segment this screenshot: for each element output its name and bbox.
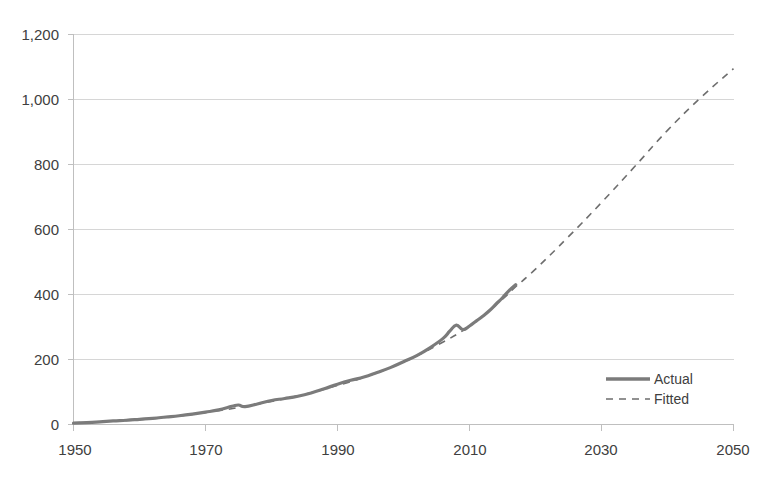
gridlines [74, 35, 734, 360]
chart-container: 1,200 1,000 800 600 400 200 0 1950 1970 … [0, 0, 767, 481]
x-tick-label-2030: 2030 [584, 441, 617, 458]
x-tick-label-1990: 1990 [321, 441, 354, 458]
axes [68, 35, 734, 431]
y-tick-label-1200: 1,200 [21, 26, 59, 43]
y-tick-label-1000: 1,000 [21, 91, 59, 108]
x-axis-tick-labels: 1950 1970 1990 2010 2030 2050 [58, 441, 749, 458]
legend-label-fitted: Fitted [654, 391, 689, 407]
legend-label-actual: Actual [654, 371, 693, 387]
line-chart: 1,200 1,000 800 600 400 200 0 1950 1970 … [0, 0, 767, 481]
y-tick-label-800: 800 [34, 156, 59, 173]
legend: Actual Fitted [606, 371, 693, 407]
y-tick-label-400: 400 [34, 286, 59, 303]
y-axis-tick-labels: 1,200 1,000 800 600 400 200 0 [21, 26, 59, 433]
x-tick-label-1970: 1970 [189, 441, 222, 458]
x-tick-label-2010: 2010 [453, 441, 486, 458]
series-line-actual [74, 285, 516, 423]
x-tick-label-2050: 2050 [716, 441, 749, 458]
series-line-fitted [74, 69, 734, 423]
y-tick-label-600: 600 [34, 221, 59, 238]
x-tick-label-1950: 1950 [58, 441, 91, 458]
y-tick-label-200: 200 [34, 351, 59, 368]
series-group [74, 69, 734, 424]
y-tick-label-0: 0 [51, 416, 59, 433]
